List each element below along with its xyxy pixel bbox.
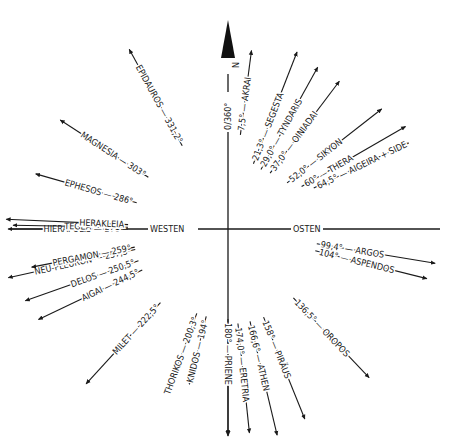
ray-label: EPIDAUROS — 331,2°: [134, 63, 185, 145]
ray-label: 180° — PRIENE: [223, 323, 233, 385]
west-label: WESTEN: [150, 224, 184, 234]
north-label: N: [230, 62, 240, 68]
ray-magnesia: MAGNESIA — 303°MAGNESIA — 303°: [60, 120, 148, 179]
east-label: OSTEN: [293, 224, 321, 234]
ray-eretria: 174,0° — ERETRIA174,0° — ERETRIA: [233, 323, 251, 432]
north-degree-label: 0/360°: [223, 103, 233, 130]
ray-milet: MILET — 222,5°MILET — 222,5°: [86, 302, 161, 384]
ray-priene: 180° — PRIENE180° — PRIENE: [223, 319, 233, 434]
ray-label: 174,0° — ERETRIA: [233, 327, 251, 403]
ray-label: 136,5° — OROPOS: [293, 297, 352, 358]
ray-label: MILET — 222,5°: [111, 302, 162, 356]
ray-label: HERAKLEIA: [79, 218, 125, 230]
compass-canvas: N 0/360° WESTEN OSTEN 7,5° — AKRAI7,5° —…: [0, 0, 452, 446]
north-arrow-icon: [221, 20, 235, 58]
ray-label: MAGNESIA — 303°: [79, 130, 148, 180]
orientation-compass-diagram: N 0/360° WESTEN OSTEN 7,5° — AKRAI7,5° —…: [0, 0, 452, 446]
ray-oropos: 136,5° — OROPOS136,5° — OROPOS: [293, 297, 370, 377]
ray-label: EPHESOS — 286°: [64, 177, 135, 206]
ray-epidauros: EPIDAUROS — 331,2°EPIDAUROS — 331,2°: [129, 49, 184, 145]
direction-rays: 7,5° — AKRAI7,5° — AKRAI21,3° — SEGESTA2…: [6, 49, 435, 435]
ray-label: 7,5° — AKRAI: [236, 76, 253, 131]
ray-ephesos: EPHESOS — 286°EPHESOS — 286°: [36, 174, 137, 207]
